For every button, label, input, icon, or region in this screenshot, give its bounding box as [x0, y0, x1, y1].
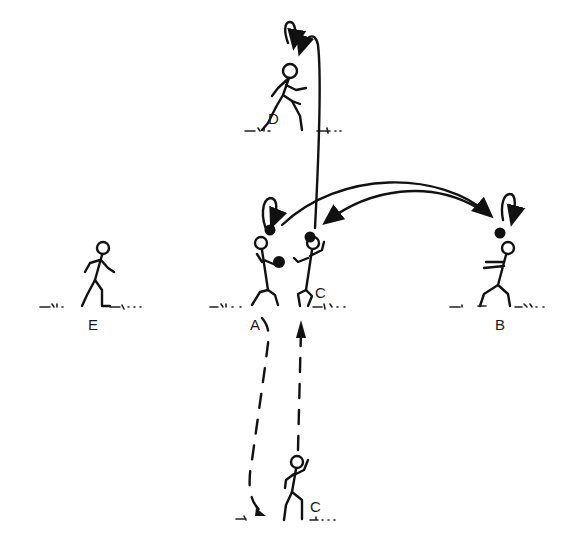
label-e: E: [88, 316, 98, 333]
player-d: D: [245, 64, 341, 133]
loop-arrow-b: [502, 194, 515, 222]
label-c: C: [315, 284, 326, 301]
pass-c-to-d: [300, 36, 320, 228]
ball: [495, 228, 506, 239]
player-c: C: [294, 232, 345, 310]
label-d: D: [268, 110, 279, 127]
label-b: B: [495, 316, 505, 333]
pass-b-to-c: [326, 191, 478, 222]
player-a: A: [210, 198, 285, 333]
loop-arrow-d: [285, 22, 295, 46]
label-c-start: C: [310, 498, 321, 515]
ball: [305, 232, 316, 243]
run-a-path: [250, 318, 269, 512]
pass-a-to-b: [282, 182, 490, 225]
drill-diagram: D A C B E: [0, 0, 564, 560]
player-e: E: [40, 242, 141, 333]
run-c-path: [298, 330, 301, 450]
player-c-start: C: [284, 456, 335, 520]
label-a: A: [250, 316, 260, 333]
player-b: B: [450, 194, 544, 333]
